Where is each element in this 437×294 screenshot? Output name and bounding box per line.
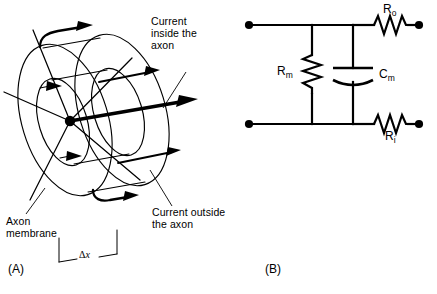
inner-top-edge: [52, 70, 107, 80]
outer-bottom-edge: [88, 182, 145, 192]
panel-a-letter: (A): [8, 262, 24, 276]
panel-b-letter: (B): [265, 262, 281, 276]
label-current-inside-line1: Current: [151, 15, 187, 27]
label-ro-subscript: o: [392, 8, 397, 18]
label-ro-symbol: R: [383, 2, 392, 16]
label-current-inside-axon: Currentinside theaxon: [151, 16, 197, 51]
label-current-outside-line1: Current outside: [152, 206, 225, 218]
resistor-rm-symbol: [303, 55, 321, 94]
label-delta-x: Δx: [79, 249, 90, 260]
terminal-dot-top-left: [245, 21, 253, 29]
label-rm-subscript: m: [286, 70, 293, 80]
terminal-dot-bottom-left: [245, 120, 253, 128]
current-arrow-lower-right: [118, 147, 181, 163]
figure-root: Currentinside theaxon Current outsidethe…: [0, 0, 437, 294]
leader-current-outside: [150, 170, 172, 206]
current-arrow-top: [40, 21, 93, 47]
label-ri-symbol: R: [385, 129, 394, 143]
circuit-drawing: [220, 0, 437, 294]
label-current-outside-line2: the axon: [152, 218, 193, 230]
label-current-outside-axon: Current outsidethe axon: [152, 207, 225, 231]
label-ri-subscript: i: [394, 135, 396, 145]
label-capacitor-cm: Cm: [379, 67, 395, 81]
label-resistor-rm: Rm: [277, 64, 293, 78]
outer-top-edge: [43, 38, 100, 48]
label-resistor-ri: Ri: [385, 129, 396, 143]
resistor-ro-symbol: [374, 16, 408, 34]
radial-line-lower-right: [70, 121, 140, 180]
delta-x-variable: x: [85, 249, 89, 260]
label-axon-membrane-line2: membrane: [6, 227, 57, 239]
label-current-inside-line3: axon: [151, 39, 174, 51]
label-current-inside-line2: inside the: [151, 27, 197, 39]
axial-current-arrow: [70, 95, 198, 121]
current-arrow-bottom: [93, 190, 139, 201]
label-rm-symbol: R: [277, 64, 286, 78]
label-resistor-ro: Ro: [383, 2, 396, 16]
label-cm-symbol: C: [379, 67, 388, 81]
label-cm-subscript: m: [388, 73, 395, 83]
terminal-dot-bottom-right: [415, 120, 423, 128]
terminal-dot-top-right: [415, 21, 423, 29]
panel-b-equivalent-circuit: Ro Ri Rm Cm (B): [220, 0, 437, 294]
label-axon-membrane: Axonmembrane: [6, 216, 57, 240]
leader-axon-membrane: [26, 188, 45, 214]
panel-a-axon-diagram: Currentinside theaxon Current outsidethe…: [0, 0, 220, 294]
label-axon-membrane-line1: Axon: [6, 215, 30, 227]
